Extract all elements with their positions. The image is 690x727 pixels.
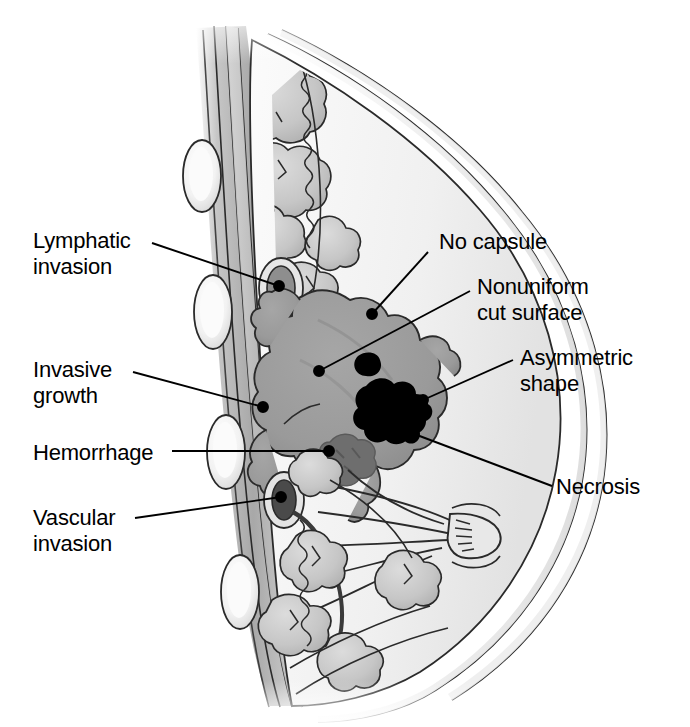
callout-label-asymmetric-shape: Asymmetricshape <box>520 345 633 397</box>
callout-label-line: Necrosis <box>556 474 640 500</box>
callout-label-hemorrhage: Hemorrhage <box>33 440 153 466</box>
leader-dot-hemorrhage <box>324 446 334 456</box>
callout-label-line: Vascular <box>33 505 115 531</box>
callout-label-necrosis: Necrosis <box>556 474 640 500</box>
callout-label-vascular-invasion: Vascularinvasion <box>33 505 115 557</box>
rib <box>207 415 245 489</box>
callout-label-nonuniform-cut-surface: Nonuniformcut surface <box>477 274 589 326</box>
callout-label-line: cut surface <box>477 300 589 326</box>
callout-label-line: Nonuniform <box>477 274 589 300</box>
callout-label-line: No capsule <box>439 229 547 255</box>
leader-dot-invasive-growth <box>258 402 268 412</box>
callout-label-invasive-growth: Invasivegrowth <box>33 357 112 409</box>
leader-dot-necrosis <box>404 427 414 437</box>
callout-label-lymphatic-invasion: Lymphaticinvasion <box>33 228 131 280</box>
bottom-fade <box>180 680 580 727</box>
callout-label-line: invasion <box>33 531 115 557</box>
callout-label-line: Lymphatic <box>33 228 131 254</box>
callout-label-line: Invasive <box>33 357 112 383</box>
callout-label-line: Hemorrhage <box>33 440 153 466</box>
callout-label-line: shape <box>520 371 633 397</box>
leader-dot-nonuniform-cut-surface <box>314 366 324 376</box>
callout-label-no-capsule: No capsule <box>439 229 547 255</box>
rib <box>183 140 221 212</box>
leader-dot-lymphatic-invasion <box>274 281 284 291</box>
leader-dot-asymmetric-shape <box>418 395 428 405</box>
callout-label-line: Asymmetric <box>520 345 633 371</box>
top-fade <box>160 0 520 64</box>
figure-canvas: LymphaticinvasionInvasivegrowthHemorrhag… <box>0 0 690 727</box>
rib <box>194 275 232 349</box>
rib <box>221 555 259 629</box>
leader-dot-no-capsule <box>367 309 377 319</box>
leader-dot-vascular-invasion <box>276 492 286 502</box>
callout-label-line: invasion <box>33 254 131 280</box>
callout-label-line: growth <box>33 383 112 409</box>
